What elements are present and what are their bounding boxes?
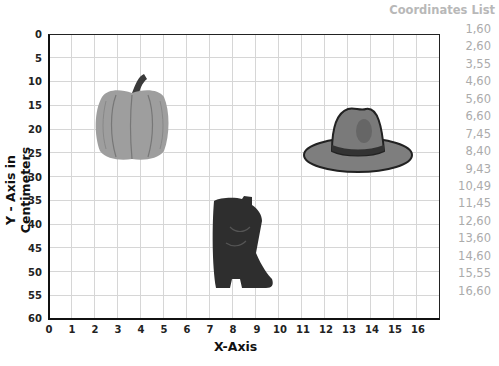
- pumpkin-icon: [94, 71, 170, 163]
- y-tick: 55: [8, 290, 42, 301]
- x-tick: 8: [223, 324, 243, 335]
- coordinate-item: 10,49: [431, 178, 491, 195]
- y-axis-label: Y - Axis in Centimeters: [3, 110, 33, 270]
- y-tick: 10: [8, 76, 42, 87]
- coordinate-item: 6,60: [431, 108, 491, 125]
- y-tick: 5: [8, 53, 42, 64]
- x-tick: 14: [362, 324, 382, 335]
- coordinate-item: 9,43: [431, 161, 491, 178]
- x-tick: 2: [85, 324, 105, 335]
- coordinate-item: 5,60: [431, 91, 491, 108]
- coordinate-item: 14,60: [431, 248, 491, 265]
- x-tick: 1: [62, 324, 82, 335]
- x-tick: 13: [339, 324, 359, 335]
- cowboy-boot-icon: [210, 195, 276, 293]
- coordinate-item: 4,60: [431, 73, 491, 90]
- x-tick: 4: [131, 324, 151, 335]
- x-tick: 9: [247, 324, 267, 335]
- coordinate-item: 12,60: [431, 213, 491, 230]
- coordinate-item: 11,45: [431, 195, 491, 212]
- cowboy-hat-icon: [302, 105, 414, 177]
- coordinate-item: 3,55: [431, 56, 491, 73]
- x-tick: 10: [270, 324, 290, 335]
- x-tick: 5: [154, 324, 174, 335]
- coordinate-item: 16,60: [431, 283, 491, 300]
- x-tick: 0: [39, 324, 59, 335]
- x-tick: 7: [200, 324, 220, 335]
- plot-area: [48, 34, 440, 320]
- coordinate-item: 1,60: [431, 21, 491, 38]
- coordinates-list: 1,60 2,60 3,55 4,60 5,60 6,60 7,45 8,40 …: [431, 21, 491, 300]
- coordinate-item: 15,55: [431, 265, 491, 282]
- x-tick: 12: [316, 324, 336, 335]
- x-tick: 6: [177, 324, 197, 335]
- coordinates-list-title: Coordinates List: [389, 3, 495, 17]
- x-tick: 11: [293, 324, 313, 335]
- x-tick: 15: [385, 324, 405, 335]
- x-tick: 16: [408, 324, 428, 335]
- coordinate-item: 13,60: [431, 230, 491, 247]
- x-tick: 3: [108, 324, 128, 335]
- coordinate-item: 7,45: [431, 126, 491, 143]
- y-tick: 0: [8, 29, 42, 40]
- x-axis-label: X-Axis: [214, 339, 257, 354]
- coordinate-item: 8,40: [431, 143, 491, 160]
- y-tick: 60: [8, 313, 42, 324]
- coordinate-item: 2,60: [431, 38, 491, 55]
